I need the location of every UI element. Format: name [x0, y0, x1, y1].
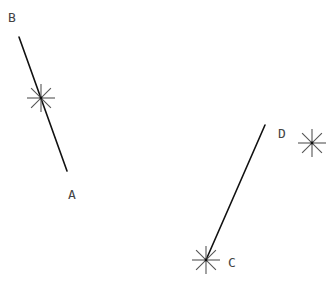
segments-group — [19, 37, 265, 260]
point-label-b: B — [8, 10, 16, 25]
asterisk-icon — [298, 129, 326, 157]
point-label-a: A — [68, 187, 76, 202]
asterisk-icon — [27, 84, 55, 112]
asterisk-icon — [192, 246, 220, 274]
point-label-d: D — [278, 126, 286, 141]
segment-ba — [19, 37, 67, 171]
diagram-canvas: BADC — [0, 0, 336, 283]
point-label-c: C — [228, 255, 236, 270]
segment-dc — [206, 125, 265, 260]
markers-group — [27, 84, 326, 274]
labels-group: BADC — [8, 10, 286, 270]
